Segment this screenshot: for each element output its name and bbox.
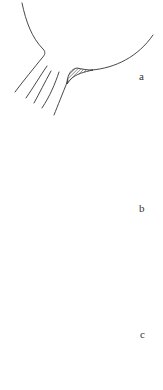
panel-a-finger-1 [26,66,47,98]
panel-a-finger-3 [42,72,59,108]
panel-a-right-shaded-region [67,68,93,84]
panel-a [15,3,153,115]
panel-a-left-outline [15,3,45,92]
diagram-figure [0,0,163,390]
panel-label-a: a [139,71,144,82]
panel-label-b: b [139,203,145,214]
panel-a-finger-2 [34,71,51,103]
panel-label-c: c [140,329,145,340]
